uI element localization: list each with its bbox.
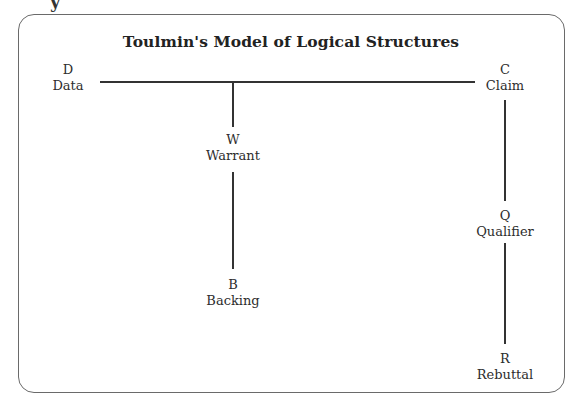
node-warrant-letter: W xyxy=(193,132,273,148)
node-qualifier: Q Qualifier xyxy=(464,208,546,240)
node-qualifier-letter: Q xyxy=(464,208,546,224)
node-rebuttal-letter: R xyxy=(464,351,546,367)
node-claim-letter: C xyxy=(474,62,536,78)
node-rebuttal-label: Rebuttal xyxy=(464,367,546,383)
clipped-heading-fragment: y xyxy=(50,0,60,12)
node-qualifier-label: Qualifier xyxy=(464,224,546,240)
edge-main-warrant xyxy=(232,82,234,127)
diagram-title: Toulmin's Model of Logical Structures xyxy=(0,32,582,51)
edge-data-claim xyxy=(100,81,475,83)
node-warrant: W Warrant xyxy=(193,132,273,164)
node-backing-label: Backing xyxy=(193,293,273,309)
edge-warrant-backing xyxy=(232,172,234,269)
node-data-label: Data xyxy=(38,78,98,94)
node-backing-letter: B xyxy=(193,277,273,293)
edge-qualifier-rebuttal xyxy=(504,243,506,344)
node-rebuttal: R Rebuttal xyxy=(464,351,546,383)
node-claim: C Claim xyxy=(474,62,536,94)
node-backing: B Backing xyxy=(193,277,273,309)
node-data-letter: D xyxy=(38,62,98,78)
node-data: D Data xyxy=(38,62,98,94)
node-claim-label: Claim xyxy=(474,78,536,94)
node-warrant-label: Warrant xyxy=(193,148,273,164)
edge-claim-qualifier xyxy=(504,100,506,201)
